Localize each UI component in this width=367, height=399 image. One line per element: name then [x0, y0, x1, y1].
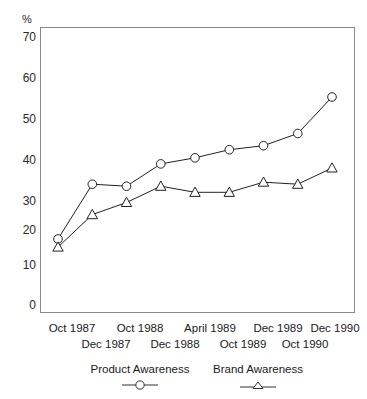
x-label-april-1989: April 1989	[184, 322, 236, 334]
x-label-dec-1989: Dec 1989	[253, 322, 302, 334]
series-product-awareness	[54, 93, 337, 244]
circle-marker-legend-icon	[118, 378, 162, 392]
legend-label-brand-awareness: Brand Awareness	[213, 363, 303, 375]
data-point-triangle	[156, 181, 166, 190]
data-point-triangle	[327, 163, 337, 172]
data-point-circle	[191, 154, 200, 163]
series-brand-awareness	[53, 163, 337, 251]
data-point-circle	[122, 182, 131, 191]
data-point-circle	[328, 93, 337, 102]
x-label-dec-1990: Dec 1990	[310, 322, 359, 334]
data-point-circle	[259, 141, 268, 150]
line-chart: % 70 60 50 40 30 20 10 0 Oct 1987 Oct 19…	[0, 0, 367, 399]
data-point-triangle	[87, 209, 98, 218]
x-label-dec-1987: Dec 1987	[81, 338, 130, 350]
data-point-circle	[88, 180, 97, 189]
data-point-circle	[225, 145, 234, 154]
x-label-dec-1988: Dec 1988	[150, 338, 199, 350]
data-point-circle	[294, 129, 303, 138]
x-label-oct-1987: Oct 1987	[49, 322, 96, 334]
data-point-circle	[157, 160, 166, 169]
data-point-triangle	[258, 177, 268, 186]
series-line	[58, 168, 332, 247]
series-line	[58, 97, 332, 239]
data-point-triangle	[121, 197, 131, 206]
x-label-oct-1990: Oct 1990	[282, 338, 329, 350]
x-label-oct-1988: Oct 1988	[117, 322, 164, 334]
triangle-marker-legend-icon	[236, 378, 280, 392]
legend-label-product-awareness: Product Awareness	[91, 363, 190, 375]
x-label-oct-1989: Oct 1989	[220, 338, 267, 350]
